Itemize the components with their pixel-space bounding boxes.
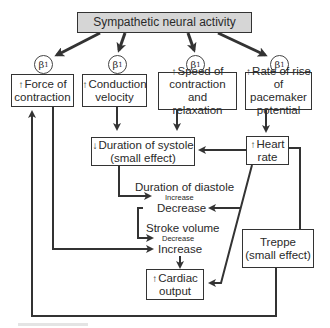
sympathetic-effects-diagram: Sympathetic neural activity β1 β1 β1 β1 … [0, 0, 330, 328]
caption-divider [18, 323, 88, 326]
conduction-velocity-box: ↑Conduction velocity [82, 74, 147, 107]
beta1-receptor-icon: β1 [34, 55, 53, 74]
diastole-decrease-label: Decrease [157, 202, 206, 214]
increase-arrow-icon: ↑ [82, 79, 87, 90]
title-label: Sympathetic neural activity [93, 16, 236, 29]
stroke-volume-label: Stroke volume [146, 222, 220, 234]
sympathetic-activity-box: Sympathetic neural activity [77, 12, 252, 33]
heart-rate-box: ↑Heart rate [246, 136, 289, 165]
force-of-contraction-box: ↑Force of contraction [11, 74, 74, 107]
treppe-box: Treppe (small effect) [242, 229, 314, 268]
decrease-arrow-icon: ↓ [92, 140, 97, 151]
pacemaker-potential-box: ↑Rate of rise of pacemaker potential [245, 72, 312, 110]
duration-of-systole-box: ↓Duration of systole (small effect) [91, 137, 195, 166]
cardiac-output-box: ↑Cardiac output [146, 269, 204, 300]
diastole-increase-label: Increase [165, 193, 194, 202]
stroke-volume-increase-label: Increase [158, 243, 202, 255]
speed-of-contraction-box: ↑Speed of contraction and relaxation [158, 72, 237, 110]
increase-arrow-icon: ↑ [171, 66, 176, 77]
stroke-volume-decrease-label: Decrease [162, 234, 194, 243]
increase-arrow-icon: ↑ [250, 139, 255, 150]
increase-arrow-icon: ↑ [246, 66, 251, 77]
increase-arrow-icon: ↑ [152, 273, 157, 284]
beta1-receptor-icon: β1 [108, 55, 127, 74]
duration-of-diastole-label: Duration of diastole [135, 181, 234, 193]
increase-arrow-icon: ↑ [18, 79, 23, 90]
